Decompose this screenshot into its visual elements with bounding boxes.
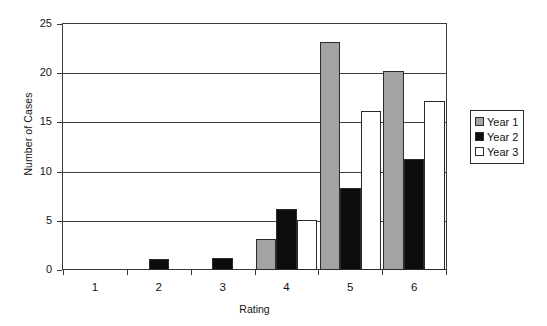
y-tick-label: 10 <box>24 166 52 177</box>
bar-year-2-rating-4[interactable] <box>276 209 297 270</box>
bar-year-1-rating-5[interactable] <box>320 42 341 270</box>
x-tick-mark <box>255 270 256 275</box>
y-tick-label: 25 <box>24 18 52 29</box>
bar-year-3-rating-4[interactable] <box>297 220 318 270</box>
x-tick-label: 2 <box>139 281 179 293</box>
bar-year-3-rating-6[interactable] <box>424 101 445 270</box>
y-tick-label: 15 <box>24 116 52 127</box>
legend-label-year-2: Year 2 <box>487 131 518 143</box>
x-tick-mark <box>382 270 383 275</box>
x-tick-label: 4 <box>266 281 306 293</box>
y-tick-label: 5 <box>24 215 52 226</box>
chart-title <box>0 0 547 2</box>
bar-year-1-rating-6[interactable] <box>383 71 404 270</box>
x-tick-mark <box>446 270 447 275</box>
bars-layer <box>63 24 446 270</box>
bar-year-2-rating-3[interactable] <box>212 258 233 270</box>
x-tick-label: 3 <box>203 281 243 293</box>
x-tick-mark <box>318 270 319 275</box>
bar-year-2-rating-5[interactable] <box>340 188 361 270</box>
legend-label-year-3: Year 3 <box>487 146 518 158</box>
bar-year-1-rating-4[interactable] <box>256 239 277 270</box>
y-tick-mark <box>57 270 62 271</box>
legend-item-year-2[interactable]: Year 2 <box>475 129 518 144</box>
x-tick-label: 6 <box>394 281 434 293</box>
x-axis-title: Rating <box>62 303 447 315</box>
legend-item-year-3[interactable]: Year 3 <box>475 144 518 159</box>
legend-swatch-icon-year-3 <box>475 147 484 156</box>
bar-year-3-rating-5[interactable] <box>361 111 382 270</box>
legend-swatch-icon-year-1 <box>475 117 484 126</box>
legend-swatch-icon-year-2 <box>475 132 484 141</box>
x-tick-mark <box>191 270 192 275</box>
x-tick-label: 5 <box>330 281 370 293</box>
legend: Year 1 Year 2 Year 3 <box>470 110 524 164</box>
x-tick-mark <box>127 270 128 275</box>
bar-chart: Number of Cases 0510152025 123456 Rating… <box>0 0 547 326</box>
bar-year-2-rating-6[interactable] <box>404 159 425 270</box>
y-tick-label: 0 <box>24 264 52 275</box>
legend-label-year-1: Year 1 <box>487 116 518 128</box>
bar-year-2-rating-2[interactable] <box>149 259 170 270</box>
legend-item-year-1[interactable]: Year 1 <box>475 114 518 129</box>
x-tick-label: 1 <box>75 281 115 293</box>
x-tick-mark <box>63 270 64 275</box>
y-tick-label: 20 <box>24 67 52 78</box>
